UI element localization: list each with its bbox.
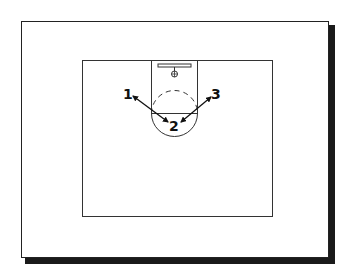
player-1-label: 1 [123,86,133,102]
player-2-label: 2 [169,118,179,134]
court-diagram: 1 2 3 [0,0,350,279]
free-throw-circle-dashed [152,91,198,114]
pass-arrow-2-to-1 [133,96,168,122]
backboard [158,64,191,67]
player-3-label: 3 [211,86,221,102]
pass-arrow-2-to-3 [181,97,211,122]
court-boundary [83,61,273,217]
